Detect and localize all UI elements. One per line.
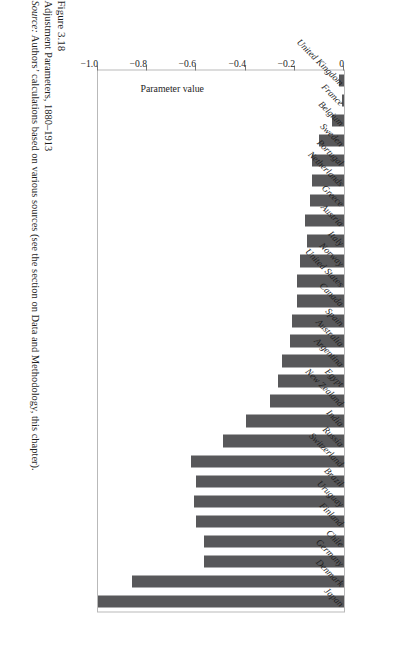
axis-title: Parameter value — [141, 83, 181, 94]
source-label: Source: — [30, 0, 41, 32]
figure-title: Adjustment Parameters, 1880–1913 — [42, 0, 55, 640]
tick-label: −0.6 — [179, 58, 196, 69]
bar-greece — [98, 194, 344, 206]
source-text: Authors’ calculations based on various s… — [30, 32, 41, 470]
plot-area: 0−0.2−0.4−0.6−0.8−1.0 United KingdomFran… — [97, 69, 345, 612]
bar-denmark — [98, 575, 344, 587]
bar-chart: 0−0.2−0.4−0.6−0.8−1.0 United KingdomFran… — [72, 0, 420, 657]
bar-australia — [98, 334, 344, 346]
tick-label: −0.2 — [277, 58, 294, 69]
bar-switzerland — [98, 455, 344, 467]
bar-new-zealand — [98, 394, 344, 406]
bar-spain — [98, 314, 344, 326]
bar-sweden — [98, 134, 344, 146]
bar-argentina — [98, 354, 344, 366]
bar-uruguay — [98, 495, 344, 507]
bar-canada — [98, 294, 344, 306]
tick-label: −0.8 — [130, 58, 147, 69]
bar-rect — [98, 595, 344, 607]
figure-caption: Figure 3.18 Adjustment Parameters, 1880–… — [28, 0, 68, 640]
bar-rect — [191, 455, 344, 467]
bar-brazil — [98, 475, 344, 487]
bar-united-states — [98, 274, 344, 286]
figure-number: Figure 3.18 — [55, 0, 68, 640]
figure-source: Source: Authors’ calculations based on v… — [28, 0, 41, 640]
bar-finland — [98, 515, 344, 527]
bar-chile — [98, 535, 344, 547]
bar-france — [98, 94, 344, 106]
bar-india — [98, 414, 344, 426]
bar-japan — [98, 595, 344, 607]
tick-label: −0.4 — [228, 58, 245, 69]
figure-stage: 0−0.2−0.4−0.6−0.8−1.0 United KingdomFran… — [0, 0, 420, 657]
bar-germany — [98, 555, 344, 567]
tick-label: 0 — [339, 58, 344, 69]
bar-belgium — [98, 114, 344, 126]
bar-rect — [196, 515, 344, 527]
bar-netherlands — [98, 174, 344, 186]
bar-austria — [98, 214, 344, 226]
bar-united-kingdom — [98, 74, 344, 86]
bar-rect — [132, 575, 344, 587]
tick-label: −1.0 — [81, 58, 98, 69]
bar-italy — [98, 234, 344, 246]
